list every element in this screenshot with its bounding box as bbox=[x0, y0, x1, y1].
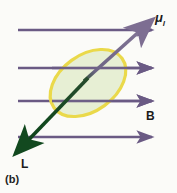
mu-vector-label: μl bbox=[155, 11, 165, 28]
angular-momentum-label: L bbox=[21, 158, 28, 170]
figure-caption: (b) bbox=[5, 174, 19, 185]
mu-subscript: l bbox=[163, 19, 165, 28]
physics-vector-diagram: μl B L (b) bbox=[0, 0, 177, 193]
magnetic-field-label: B bbox=[146, 110, 155, 122]
mu-symbol: μ bbox=[155, 10, 163, 25]
